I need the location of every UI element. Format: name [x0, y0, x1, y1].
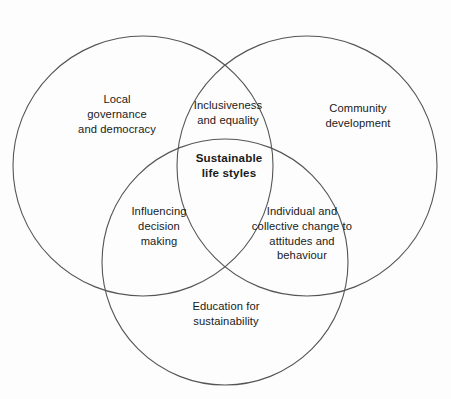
- label-community-development: Community development: [290, 101, 426, 131]
- venn-circles-group: [0, 0, 451, 399]
- label-inclusiveness-and-equality: Inclusiveness and equality: [172, 98, 284, 128]
- venn-diagram-canvas: Local governance and democracy Community…: [0, 0, 451, 399]
- label-individual-and-collective-change: Individual and collective change to atti…: [238, 204, 366, 263]
- label-influencing-decision-making: Influencing decision making: [104, 204, 214, 248]
- label-local-governance-and-democracy: Local governance and democracy: [52, 92, 182, 136]
- label-sustainable-life-styles: Sustainable life styles: [170, 150, 288, 181]
- label-education-for-sustainability: Education for sustainability: [158, 299, 294, 329]
